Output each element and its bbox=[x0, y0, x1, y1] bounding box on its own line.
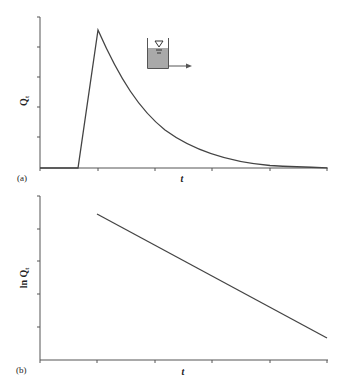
x-axis-label-b: t bbox=[182, 366, 186, 377]
panel-b-axes bbox=[37, 196, 328, 363]
tank-inset bbox=[148, 38, 193, 69]
outflow-arrow-icon bbox=[186, 64, 192, 69]
y-axis-label-b: ln Qt bbox=[18, 268, 30, 289]
water-level-triangle-icon bbox=[155, 41, 163, 47]
panel-label-b: (b) bbox=[16, 365, 27, 375]
x-axis-label-a: t bbox=[181, 173, 185, 184]
y-axis-label-a: Qt bbox=[18, 96, 30, 106]
figure: Qt t (a) ln Qt t (b) bbox=[0, 0, 343, 391]
panel-label-a: (a) bbox=[17, 173, 27, 183]
log-recession-line bbox=[97, 214, 327, 338]
hydrograph-curve bbox=[40, 30, 327, 168]
